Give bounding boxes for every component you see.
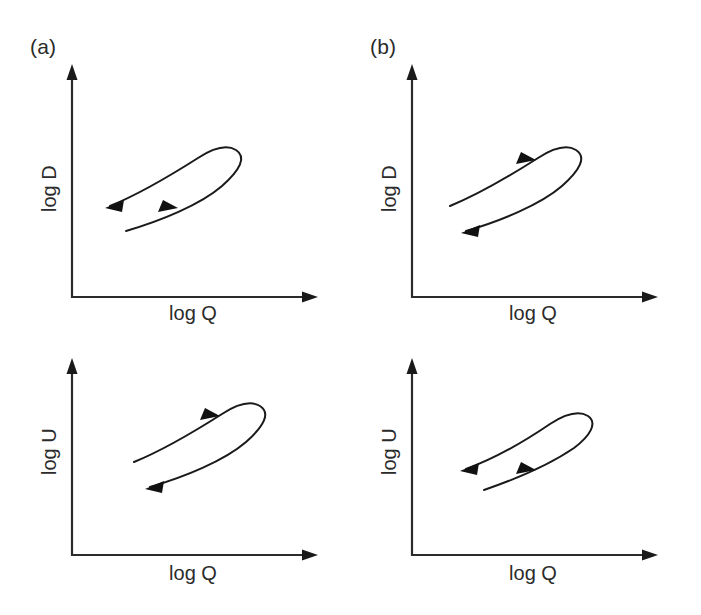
- x-axis-arrowhead: [642, 292, 658, 303]
- loop-curve: [110, 147, 241, 231]
- hysteresis-loop-b-top: [450, 147, 581, 237]
- figure-container: (a) log Q log D (b): [0, 0, 701, 615]
- axis-lines: [72, 78, 304, 297]
- axis-lines: [72, 372, 304, 555]
- y-axis-label-a-bottom: log U: [38, 428, 61, 475]
- loop-arrowhead-lower-left: [461, 225, 480, 237]
- panel-b-top-plot: [340, 0, 701, 320]
- y-axis-arrowhead: [407, 64, 418, 80]
- x-axis-arrowhead: [642, 550, 658, 561]
- y-axis-label-b-bottom: log U: [378, 428, 401, 475]
- x-axis-label-a-bottom: log Q: [128, 562, 258, 585]
- y-axis-arrowhead: [67, 64, 78, 80]
- hysteresis-loop-a-bottom: [134, 403, 265, 493]
- axes-group-b-top: [407, 64, 659, 303]
- panel-a-bottom: log Q log U: [0, 310, 350, 615]
- y-axis-label-a-top: log D: [38, 165, 61, 212]
- panel-b-bottom: log Q log U: [340, 310, 701, 615]
- loop-curve: [466, 413, 592, 490]
- loop-arrowhead-lower-right: [158, 200, 178, 212]
- axes-group-a-top: [67, 64, 319, 303]
- panel-b-top: (b) log Q log D: [340, 0, 701, 320]
- x-axis-arrowhead: [302, 292, 318, 303]
- loop-curve: [450, 147, 581, 231]
- loop-arrowhead-lower-left: [145, 481, 164, 493]
- panel-a-top-plot: [0, 0, 350, 320]
- hysteresis-loop-a-top: [105, 147, 241, 231]
- panel-a-top: (a) log Q log D: [0, 0, 350, 320]
- axis-lines: [412, 372, 644, 555]
- loop-arrowhead-upper-left: [105, 200, 124, 212]
- x-axis-arrowhead: [302, 550, 318, 561]
- loop-arrowhead-lower-right: [516, 462, 536, 474]
- axes-group-a-bottom: [67, 358, 319, 561]
- loop-curve: [134, 403, 265, 487]
- y-axis-label-b-top: log D: [378, 165, 401, 212]
- loop-arrowhead-upper-left: [460, 463, 479, 475]
- y-axis-arrowhead: [67, 358, 78, 374]
- axes-group-b-bottom: [407, 358, 659, 561]
- x-axis-label-b-bottom: log Q: [468, 562, 598, 585]
- hysteresis-loop-b-bottom: [460, 413, 592, 490]
- y-axis-arrowhead: [407, 358, 418, 374]
- axis-lines: [412, 78, 644, 297]
